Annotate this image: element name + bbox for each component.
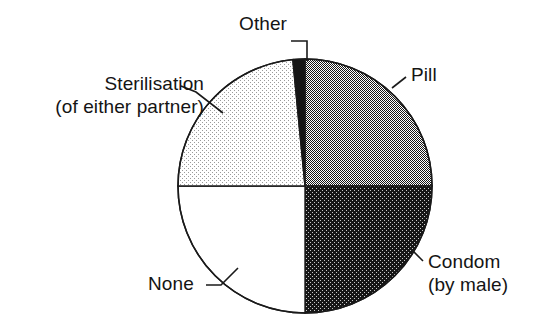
leader-line-other xyxy=(291,41,307,61)
slice-label-pill-line1: Pill xyxy=(411,64,437,85)
slice-label-condom-line1: Condom xyxy=(428,251,500,272)
pie-slice-condom-by-male xyxy=(305,186,432,313)
slice-label-other: Other xyxy=(239,12,287,35)
slice-label-sterilisation-line1: Sterilisation xyxy=(104,73,204,94)
slice-label-none: None xyxy=(148,272,194,295)
slice-label-condom-line2: (by male) xyxy=(428,273,508,296)
pie-chart: Other Pill Sterilisation (of either part… xyxy=(0,0,540,326)
slice-label-none-line1: None xyxy=(148,273,194,294)
slice-label-sterilisation: Sterilisation (of either partner) xyxy=(8,72,204,118)
slice-label-sterilisation-line2: (of either partner) xyxy=(8,95,204,118)
slice-label-other-line1: Other xyxy=(239,13,287,34)
leader-line-pill xyxy=(392,77,406,88)
pie-slice-none xyxy=(178,186,305,313)
slice-label-condom: Condom (by male) xyxy=(428,250,508,296)
slice-label-pill: Pill xyxy=(411,63,437,86)
pie-slices xyxy=(178,59,432,313)
